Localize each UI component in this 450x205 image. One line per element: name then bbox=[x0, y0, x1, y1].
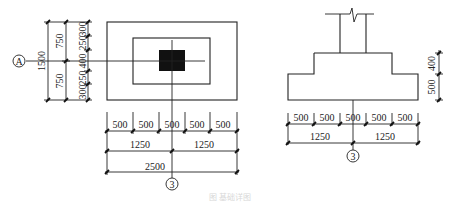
plan-view: A 1500 750 750 bbox=[13, 20, 239, 190]
sec-dim-1250-right: 1250 bbox=[375, 131, 395, 142]
dim-1250-right: 1250 bbox=[194, 139, 214, 150]
sec-dim-500-2: 500 bbox=[320, 112, 335, 123]
dim-1250-left: 1250 bbox=[130, 139, 150, 150]
dim-2500: 2500 bbox=[145, 161, 165, 172]
dim-height-500: 500 bbox=[426, 80, 437, 95]
dim-500-2: 500 bbox=[139, 119, 154, 130]
dim-750-bottom: 750 bbox=[54, 74, 65, 89]
sec-dim-1250-left: 1250 bbox=[310, 131, 330, 142]
sec-dim-500-1: 500 bbox=[294, 112, 309, 123]
section-view: 400 500 500 500 500 500 500 1250 bbox=[286, 8, 443, 162]
dim-500-3: 500 bbox=[165, 119, 180, 130]
break-symbol bbox=[350, 8, 357, 22]
dim-height-400: 400 bbox=[426, 56, 437, 71]
dim-400: 400 bbox=[77, 54, 88, 69]
dim-750-top: 750 bbox=[54, 34, 65, 49]
sec-dim-500-3: 500 bbox=[346, 112, 361, 123]
foundation-drawing: A 1500 750 750 bbox=[0, 0, 450, 205]
footing-profile bbox=[288, 53, 418, 100]
dim-500-5: 500 bbox=[216, 119, 231, 130]
axis-label-3-plan: 3 bbox=[170, 179, 175, 190]
dim-300-top: 300 bbox=[77, 22, 88, 37]
dim-250-top: 250 bbox=[77, 36, 88, 51]
dim-total-1500: 1500 bbox=[36, 51, 47, 71]
dim-500-4: 500 bbox=[190, 119, 205, 130]
axis-label-3-section: 3 bbox=[351, 151, 356, 162]
axis-label-a: A bbox=[15, 56, 23, 67]
dim-300-bottom: 300 bbox=[77, 85, 88, 100]
dim-500-1: 500 bbox=[113, 119, 128, 130]
sec-dim-500-5: 500 bbox=[398, 112, 413, 123]
figure-caption: 图 基础详图 bbox=[209, 192, 251, 202]
dim-250-bottom: 250 bbox=[77, 71, 88, 86]
sec-dim-500-4: 500 bbox=[372, 112, 387, 123]
